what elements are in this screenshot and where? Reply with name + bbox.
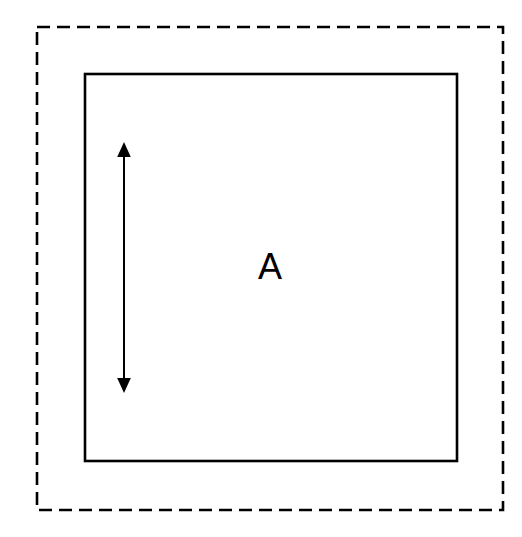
- arrow-head-up-icon: [117, 142, 131, 157]
- vertical-double-headed-arrow: [117, 142, 131, 393]
- arrow-head-down-icon: [117, 378, 131, 393]
- diagram-svg: A: [0, 0, 522, 537]
- figure-canvas: A: [0, 0, 522, 537]
- region-label-a: A: [258, 246, 282, 287]
